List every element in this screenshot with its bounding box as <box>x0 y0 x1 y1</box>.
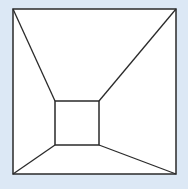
inner-square <box>55 101 99 145</box>
perspective-diagram <box>0 0 188 189</box>
outer-square <box>13 9 176 174</box>
